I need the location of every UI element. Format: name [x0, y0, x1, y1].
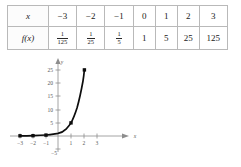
- cell-x-2: −1: [105, 6, 133, 27]
- value-table: x −3 −2 −1 0 1 2 3 f(x) 1 125 1 25: [7, 5, 228, 50]
- cell-x-0: −3: [48, 6, 76, 27]
- graph-figure: −3 −2 −1 1 2 3 25 20 15 10 5 −5 x y: [0, 56, 241, 167]
- x-tick-label--2: −2: [30, 140, 36, 146]
- cell-fx-5: 25: [177, 27, 199, 50]
- row-header-x: x: [8, 6, 49, 27]
- cell-x-4: 1: [155, 6, 177, 27]
- fraction-denominator: 125: [57, 39, 69, 46]
- fraction-denominator: 25: [87, 39, 96, 46]
- table-row-fx: f(x) 1 125 1 25 1 5 1 5 25: [8, 27, 228, 50]
- y-tick-label-25: 25: [47, 67, 53, 73]
- y-tick-label--5: −5: [51, 150, 57, 156]
- x-axis-label: x: [133, 133, 137, 139]
- x-tick-label-1: 1: [70, 140, 73, 146]
- fraction-2: 1 5: [116, 31, 121, 46]
- cell-x-6: 3: [199, 6, 227, 27]
- y-axis-label: y: [60, 59, 64, 65]
- cell-x-3: 0: [133, 6, 155, 27]
- data-point--1: [44, 133, 47, 136]
- cell-fx-0: 1 125: [48, 27, 76, 50]
- y-tick-label-5: 5: [50, 120, 53, 126]
- cell-fx-4: 5: [155, 27, 177, 50]
- cell-x-5: 2: [177, 6, 199, 27]
- cell-fx-6: 125: [199, 27, 227, 50]
- y-tick-label-20: 20: [47, 80, 53, 86]
- cell-fx-3: 1: [133, 27, 155, 50]
- table-row-x: x −3 −2 −1 0 1 2 3: [8, 6, 228, 27]
- fraction-denominator: 5: [116, 39, 121, 46]
- x-tick-label-2: 2: [83, 140, 86, 146]
- x-axis-arrow-icon: [122, 133, 129, 138]
- x-tick-label--1: −1: [43, 140, 49, 146]
- data-point--3: [18, 134, 21, 137]
- fraction-0: 1 125: [57, 31, 69, 46]
- y-tick-label-15: 15: [47, 93, 53, 99]
- data-point--2: [31, 134, 34, 137]
- y-tick-label-10: 10: [47, 107, 53, 113]
- row-header-fx: f(x): [8, 27, 49, 50]
- cell-fx-1: 1 25: [77, 27, 105, 50]
- fraction-1: 1 25: [87, 31, 96, 46]
- cell-x-1: −2: [77, 6, 105, 27]
- x-tick-label--3: −3: [17, 140, 23, 146]
- data-point-2: [83, 68, 86, 71]
- x-tick-label-3: 3: [96, 140, 99, 146]
- exponential-graph: −3 −2 −1 1 2 3 25 20 15 10 5 −5 x y: [0, 56, 241, 167]
- data-point-1: [69, 121, 72, 124]
- cell-fx-2: 1 5: [105, 27, 133, 50]
